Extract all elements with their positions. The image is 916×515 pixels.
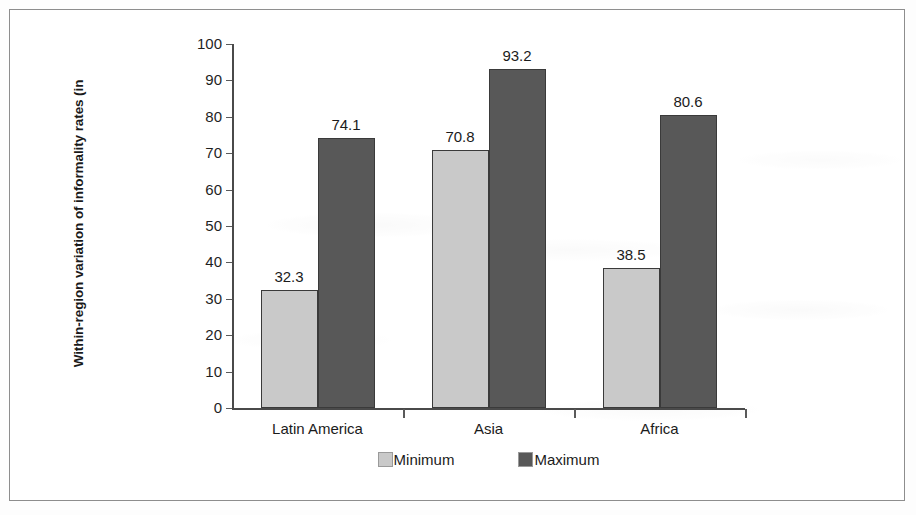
- legend-swatch-min: [378, 452, 393, 467]
- y-tick-mark: [226, 335, 232, 336]
- category-label: Latin America: [218, 421, 418, 436]
- y-tick-label: 90: [188, 72, 222, 87]
- chart-legend: MinimumMaximum: [232, 452, 745, 467]
- bar-value-label: 32.3: [254, 269, 324, 284]
- bar-minimum: [432, 150, 489, 408]
- x-tick-mark: [574, 409, 576, 418]
- y-tick-mark: [226, 299, 232, 300]
- scanned-page: Within-region variation of informality r…: [0, 0, 916, 515]
- bar-minimum: [603, 268, 660, 408]
- bar-value-label: 74.1: [311, 117, 381, 132]
- y-tick-label: 30: [188, 291, 222, 306]
- x-tick-mark: [745, 409, 747, 418]
- bar-maximum: [660, 115, 717, 408]
- y-tick-label: 0: [188, 400, 222, 415]
- y-axis-title: Within-region variation of informality r…: [71, 14, 86, 434]
- y-tick-mark: [226, 117, 232, 118]
- category-label: Africa: [560, 421, 760, 436]
- bar-minimum: [261, 290, 318, 408]
- x-axis-line: [232, 408, 745, 410]
- bar-maximum: [318, 138, 375, 408]
- grouped-bar-chart: Within-region variation of informality r…: [0, 0, 916, 515]
- y-axis-line: [232, 44, 234, 409]
- bar-maximum: [489, 69, 546, 408]
- x-tick-mark: [403, 409, 405, 418]
- y-tick-mark: [226, 408, 232, 409]
- y-tick-mark: [226, 226, 232, 227]
- bar-value-label: 80.6: [653, 94, 723, 109]
- y-tick-label: 50: [188, 218, 222, 233]
- y-tick-label: 40: [188, 254, 222, 269]
- y-tick-label: 100: [188, 36, 222, 51]
- y-tick-label: 10: [188, 364, 222, 379]
- y-tick-mark: [226, 262, 232, 263]
- y-tick-mark: [226, 80, 232, 81]
- legend-swatch-max: [518, 452, 533, 467]
- legend-label: Minimum: [394, 452, 455, 467]
- y-tick-label: 60: [188, 182, 222, 197]
- bar-value-label: 93.2: [482, 48, 552, 63]
- category-label: Asia: [389, 421, 589, 436]
- y-tick-mark: [226, 153, 232, 154]
- bar-value-label: 70.8: [425, 129, 495, 144]
- legend-item: Minimum: [378, 452, 455, 467]
- y-tick-label: 80: [188, 109, 222, 124]
- legend-label: Maximum: [534, 452, 599, 467]
- y-tick-mark: [226, 44, 232, 45]
- y-tick-mark: [226, 190, 232, 191]
- y-tick-label: 70: [188, 145, 222, 160]
- legend-item: Maximum: [518, 452, 599, 467]
- y-tick-mark: [226, 372, 232, 373]
- y-tick-label: 20: [188, 327, 222, 342]
- bar-value-label: 38.5: [596, 247, 666, 262]
